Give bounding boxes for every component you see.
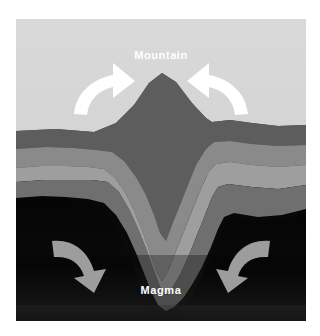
cross-section-figure: Mountain Magma <box>16 19 306 321</box>
cross-section-svg <box>16 19 306 321</box>
diagram-page: Mountain Magma <box>0 0 320 336</box>
magma-base-glow <box>16 305 306 321</box>
